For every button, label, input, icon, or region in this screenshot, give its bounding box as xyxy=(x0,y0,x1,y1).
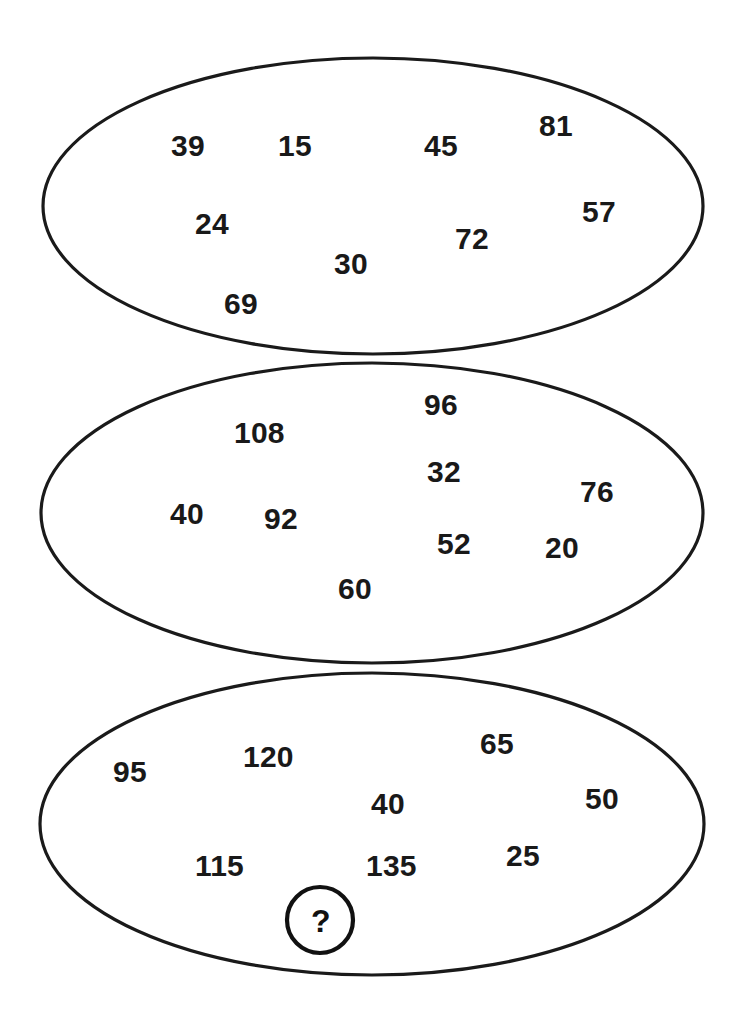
number-item: 39 xyxy=(171,131,205,161)
number-item: 69 xyxy=(224,289,258,319)
number-item: 81 xyxy=(539,111,573,141)
number-item: 40 xyxy=(371,789,405,819)
number-item: 96 xyxy=(424,390,458,420)
number-item: 57 xyxy=(582,197,616,227)
number-item: 30 xyxy=(334,249,368,279)
number-item: 65 xyxy=(480,729,514,759)
number-item: 115 xyxy=(195,851,244,881)
number-item: 24 xyxy=(195,209,229,239)
number-item: 45 xyxy=(424,131,458,161)
number-item: 52 xyxy=(437,529,471,559)
number-item: 50 xyxy=(585,784,619,814)
number-item: 76 xyxy=(580,477,614,507)
answer-slot-label[interactable]: ? xyxy=(311,905,331,937)
number-item: 25 xyxy=(506,841,540,871)
number-item: 92 xyxy=(264,504,298,534)
number-item: 32 xyxy=(427,457,461,487)
number-item: 60 xyxy=(338,574,372,604)
number-item: 120 xyxy=(243,742,294,772)
number-item: 95 xyxy=(113,757,147,787)
puzzle-canvas: 39 15 45 81 24 57 72 30 69 96 108 32 76 … xyxy=(0,0,741,1016)
number-item: 108 xyxy=(234,418,285,448)
number-item: 135 xyxy=(366,851,417,881)
number-item: 20 xyxy=(545,533,579,563)
number-layer: 39 15 45 81 24 57 72 30 69 96 108 32 76 … xyxy=(0,0,741,1016)
number-item: 15 xyxy=(278,131,312,161)
number-item: 72 xyxy=(455,224,489,254)
number-item: 40 xyxy=(170,499,204,529)
